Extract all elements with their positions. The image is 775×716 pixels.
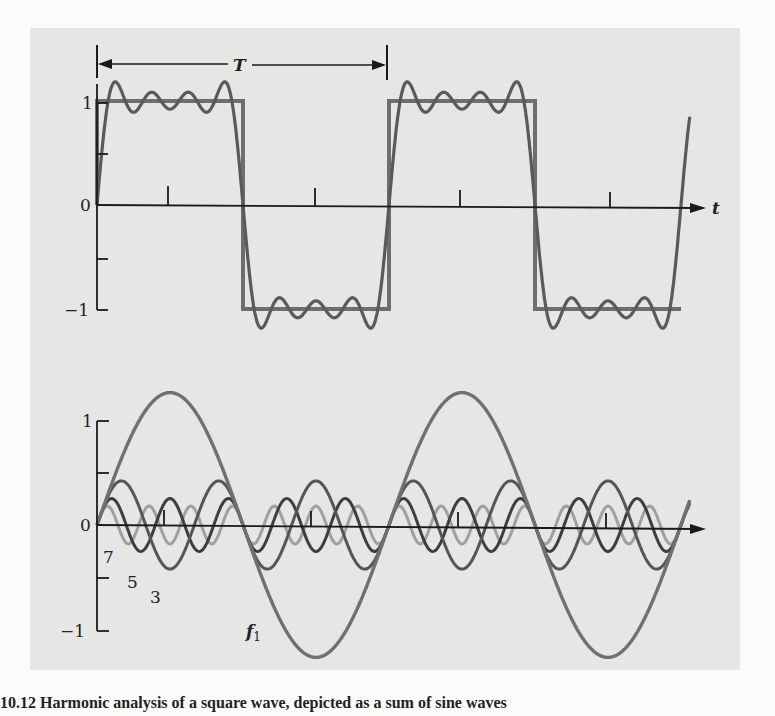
top-plot: T 1 0 −1 t: [64, 45, 720, 328]
figure-caption: 10.12 Harmonic analysis of a square wave…: [0, 694, 775, 716]
top-ytick-minus1: −1: [64, 300, 89, 320]
bottom-ytick-minus1: −1: [60, 621, 85, 641]
bottom-plot: 1 0 −1 7 5 3 f1: [60, 393, 706, 658]
bottom-ytick-1: 1: [82, 411, 93, 431]
bottom-axis-arrow-icon: [690, 524, 706, 534]
fundamental-label: f1: [245, 621, 261, 644]
top-ytick-1: 1: [82, 93, 93, 113]
bottom-ytick-0: 0: [80, 515, 91, 535]
top-ytick-0: 0: [80, 195, 91, 215]
t-axis-arrow-icon: [690, 203, 706, 213]
harmonic-5-label: 5: [127, 572, 138, 592]
period-bracket: T: [97, 45, 387, 80]
harmonic-7-label: 7: [103, 547, 114, 567]
t-axis-label: t: [712, 198, 720, 218]
fourier-figure: T 1 0 −1 t: [0, 0, 775, 716]
bottom-t-axis: [97, 525, 700, 529]
harmonic-3-label: 3: [150, 587, 161, 607]
period-label: T: [233, 55, 247, 75]
